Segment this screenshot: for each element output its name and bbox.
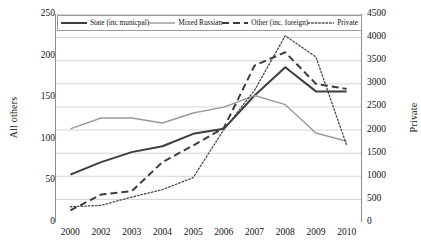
y-axis-right-tick-label: 3000: [367, 78, 386, 88]
x-axis-tick-label: 2007: [245, 228, 264, 238]
y-axis-right-tick-label: 4500: [367, 9, 386, 19]
x-axis-tick-label: 2002: [92, 228, 111, 238]
x-axis-tick-label: 2000: [61, 228, 80, 238]
x-axis-tick-label: 2008: [276, 228, 295, 238]
y-axis-right-tick-label: 1500: [367, 148, 386, 158]
legend-item-label: Private: [337, 19, 358, 27]
solid-line-swatch: [61, 19, 87, 27]
x-axis-tick-label: 2005: [184, 228, 203, 238]
legend-item-other-inc-foreign[interactable]: Other (inc. foreign): [222, 19, 308, 27]
legend-item-label: Other (inc. foreign): [251, 19, 308, 27]
dotted-line-swatch: [308, 19, 334, 27]
plot-svg: [55, 14, 362, 222]
x-axis-tick-label: 2006: [214, 228, 233, 238]
y-axis-right-tick-label: 0: [367, 217, 372, 227]
y-axis-left-tick-label: 200: [41, 51, 55, 61]
legend-item-mixed-russian[interactable]: Mixed Russian: [149, 19, 222, 27]
legend-item-private[interactable]: Private: [308, 19, 358, 27]
series-line-mixed-russian: [70, 96, 346, 142]
y-axis-left-tick-label: 250: [41, 9, 55, 19]
y-axis-right-tick-label: 3500: [367, 55, 386, 65]
x-axis-tick-label: 2003: [122, 228, 141, 238]
chart-container: All others Private 050100150200250 05001…: [0, 0, 421, 249]
y-axis-left-tick-label: 150: [41, 92, 55, 102]
y-axis-right-tick-label: 500: [367, 194, 381, 204]
y-axis-left-tick-label: 100: [41, 134, 55, 144]
solid-line-swatch: [149, 19, 175, 27]
chart-legend: State (inc municpal)Mixed RussianOther (…: [57, 15, 362, 31]
x-axis-tick-label: 2004: [153, 228, 172, 238]
x-axis-tick-label: 2009: [306, 228, 325, 238]
y-axis-left-tick-label: 50: [46, 175, 56, 185]
y-axis-left-title: All others: [8, 83, 19, 153]
legend-item-label: Mixed Russian: [178, 19, 222, 27]
y-axis-right-tick-label: 2000: [367, 125, 386, 135]
series-line-private: [70, 36, 346, 207]
y-axis-right-tick-label: 2500: [367, 101, 386, 111]
y-axis-right-title: Private: [408, 83, 419, 153]
plot-area: [55, 14, 362, 222]
dashed-line-swatch: [222, 19, 248, 27]
legend-item-state-inc-municpal[interactable]: State (inc municpal): [61, 19, 149, 27]
y-axis-right-tick-label: 4000: [367, 32, 386, 42]
y-axis-right-tick-label: 1000: [367, 171, 386, 181]
x-axis-tick-label: 2010: [337, 228, 356, 238]
legend-item-label: State (inc municpal): [90, 19, 149, 27]
